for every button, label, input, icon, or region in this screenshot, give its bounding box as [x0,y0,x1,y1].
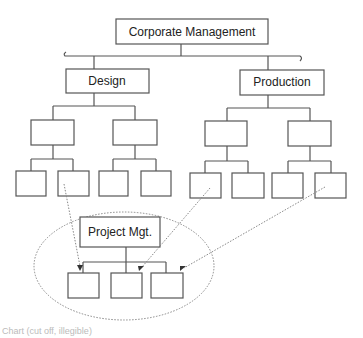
design-unit-box [113,120,157,145]
design-subunit-box [58,171,89,196]
figure-caption: Chart (cut off, illegible) [2,326,92,336]
arrowhead-icon [138,266,144,271]
project-mgt-label: Project Mgt. [88,225,152,239]
arrowhead-icon [77,265,83,271]
production-subunit-box [190,173,221,198]
production-unit-box [205,121,247,146]
project-member-box [68,273,99,298]
production-label: Production [253,75,310,89]
design-label: Design [88,74,125,88]
project-member-box [151,273,183,298]
production-subunit-box [315,173,346,198]
assignment-arrow [184,187,325,268]
project-member-box [111,273,142,298]
production-unit-box [288,121,331,146]
design-subunit-box [99,171,128,196]
production-subunit-box [232,173,264,198]
corporate-management-label: Corporate Management [129,25,256,39]
design-unit-box [31,120,74,145]
org-chart: Corporate Management Design Production P… [0,0,363,338]
design-subunit-box [141,171,171,196]
production-subunit-box [272,173,303,198]
design-subunit-box [16,171,46,196]
arrowhead-icon [180,266,186,271]
main-bar [64,52,301,61]
